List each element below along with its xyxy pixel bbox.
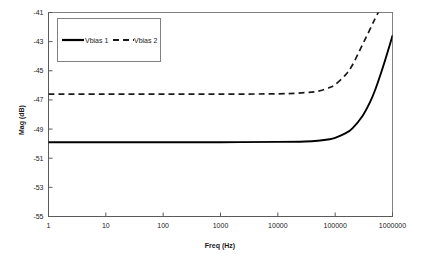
chart-container: 1101001000100001000001000000 -41-43-45-4… <box>0 0 423 264</box>
y-tick-label: -47 <box>33 96 43 103</box>
y-tick-label: -49 <box>33 126 43 133</box>
magnitude-frequency-chart: 1101001000100001000001000000 -41-43-45-4… <box>0 0 423 264</box>
x-tick-label: 1000000 <box>379 222 406 229</box>
legend-label-vbias-1: Vbias 1 <box>85 37 108 44</box>
y-tick-label: -51 <box>33 155 43 162</box>
y-tick-label: -53 <box>33 184 43 191</box>
legend-label-vbias-2: Vbias 2 <box>134 37 157 44</box>
x-tick-label: 100 <box>157 222 169 229</box>
y-axis-ticks: -41-43-45-47-49-51-53-55 <box>33 9 52 220</box>
x-tick-label: 100000 <box>323 222 346 229</box>
x-tick-label: 1 <box>47 222 51 229</box>
chart-legend: Vbias 1 Vbias 2 <box>58 19 161 62</box>
x-axis-title: Freq (Hz) <box>205 242 235 250</box>
y-tick-label: -55 <box>33 213 43 220</box>
x-tick-label: 10 <box>102 222 110 229</box>
y-tick-label: -43 <box>33 38 43 45</box>
y-axis-title: Mag (dB) <box>18 105 26 135</box>
x-tick-label: 10000 <box>268 222 288 229</box>
x-tick-label: 1000 <box>213 222 229 229</box>
y-tick-label: -41 <box>33 9 43 16</box>
x-axis-ticks: 1101001000100001000001000000 <box>47 213 407 229</box>
y-tick-label: -45 <box>33 67 43 74</box>
